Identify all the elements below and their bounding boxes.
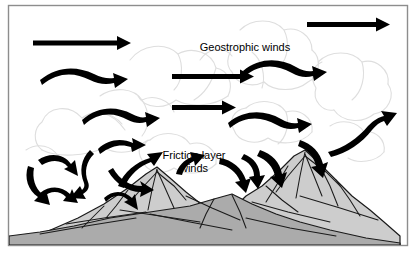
friction-layer-winds-label-line1: Friction layer [163, 149, 226, 161]
diagram-canvas: Geostrophic winds Friction layer winds [0, 0, 416, 255]
geostrophic-winds-label: Geostrophic winds [200, 41, 291, 53]
friction-layer-winds-label-line2: winds [179, 162, 209, 174]
wind-diagram-figure: Geostrophic winds Friction layer winds [0, 0, 416, 255]
